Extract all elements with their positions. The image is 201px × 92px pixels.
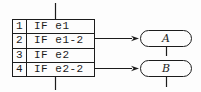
node-b: B [140,60,192,77]
node-a: A [140,30,192,47]
condition-table: 1 IF e1 2 IF e1-2 3 IF e2 4 IF e2-2 [12,19,95,77]
arrow-to-node-b [95,66,139,72]
row-number: 3 [13,49,27,62]
row-number: 1 [13,20,27,33]
row-condition-label: IF e1-2 [27,34,94,47]
table-row: 1 IF e1 [13,20,94,34]
row-condition-label: IF e2-2 [27,63,94,76]
table-row: 3 IF e2 [13,49,94,63]
table-row: 4 IF e2-2 [13,63,94,76]
node-a-label: A [162,33,170,44]
arrow-to-node-a [95,36,139,42]
row-number: 4 [13,63,27,76]
arrow-to-node-a-head-icon [131,36,139,42]
flowchart-figure: 1 IF e1 2 IF e1-2 3 IF e2 4 IF e2-2 A B [0,0,201,92]
row-condition-label: IF e2 [27,49,94,62]
row-condition-label: IF e1 [27,20,94,33]
table-row: 2 IF e1-2 [13,34,94,48]
arrow-to-node-b-head-icon [131,66,139,72]
row-number: 2 [13,34,27,47]
node-b-label: B [162,63,170,74]
